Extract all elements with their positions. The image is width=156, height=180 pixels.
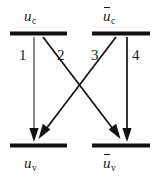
- level-label-lower-left-subscript: v: [32, 163, 37, 173]
- transition-arrow-4: [122, 37, 131, 142]
- level-bar-upper-right: [92, 32, 150, 36]
- overbar-decoration: u: [103, 156, 111, 171]
- level-label-lower-right-subscript: v: [111, 163, 116, 173]
- transition-diagram: uc uc uv uv 1 2 3 4: [0, 0, 156, 180]
- diagram-canvas: [0, 0, 156, 180]
- transition-number-3: 3: [91, 48, 99, 63]
- level-label-upper-right-subscript: c: [111, 16, 115, 26]
- level-label-lower-left-base: u: [24, 155, 32, 171]
- level-label-lower-right-base: u: [103, 155, 111, 171]
- transition-number-4: 4: [132, 48, 140, 63]
- level-label-upper-right-base: u: [103, 8, 111, 24]
- level-label-lower-right: uv: [103, 156, 116, 173]
- level-label-upper-left: uc: [24, 9, 36, 26]
- transition-arrow-1: [29, 37, 38, 142]
- overbar-decoration: u: [103, 9, 111, 24]
- level-bar-upper-left: [10, 32, 67, 36]
- transition-number-2: 2: [57, 48, 65, 63]
- level-label-upper-left-subscript: c: [32, 16, 36, 26]
- transition-number-1: 1: [19, 48, 27, 63]
- transition-arrow-2: [43, 37, 121, 139]
- level-label-upper-right: uc: [103, 9, 115, 26]
- level-bar-lower-left: [10, 144, 67, 148]
- level-bar-lower-right: [92, 144, 150, 148]
- transition-arrow-3: [39, 37, 117, 139]
- level-label-upper-left-base: u: [24, 8, 32, 24]
- level-label-lower-left: uv: [24, 156, 37, 173]
